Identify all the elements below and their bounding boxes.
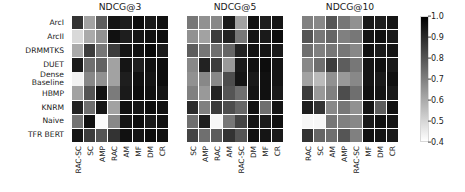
heatmap-cell [133, 86, 144, 99]
x-axis-tick: MF [259, 143, 271, 192]
heatmap-cell [375, 101, 386, 114]
heatmap-cell [120, 16, 131, 29]
heatmap-cell [248, 30, 259, 43]
heatmap-cell [72, 30, 83, 43]
heatmap-cell [84, 86, 95, 99]
heatmap-cell [84, 44, 95, 57]
heatmap-panel-ndcg5: NDCG@5 SCAMPRACAMRAC-SCDMMFCR [187, 16, 283, 142]
x-axis-tick: SC [187, 143, 199, 192]
heatmap-cell [363, 86, 374, 99]
x-axis-label: DM [249, 146, 258, 158]
heatmap-cell [211, 30, 222, 43]
heatmap-cell [272, 101, 283, 114]
heatmap-cell [108, 129, 119, 142]
heatmap-cell [157, 72, 168, 85]
heatmap-cell [133, 58, 144, 71]
heatmap-cell [187, 129, 198, 142]
heatmap-cell [375, 115, 386, 128]
heatmap-cell [248, 115, 259, 128]
heatmap-cell [363, 115, 374, 128]
heatmap-cell [108, 44, 119, 57]
heatmap-cell [145, 44, 156, 57]
heatmap-cell [120, 72, 131, 85]
heatmap-cell [338, 86, 349, 99]
heatmap-cell [211, 129, 222, 142]
heatmap-cell [326, 30, 337, 43]
heatmap-cell [72, 86, 83, 99]
heatmap-cell [145, 58, 156, 71]
heatmap-cell [363, 30, 374, 43]
heatmap-cell [211, 86, 222, 99]
heatmap-cell [199, 101, 210, 114]
x-axis-label: SC [189, 146, 198, 156]
heatmap-cell [72, 115, 83, 128]
x-axis-tick: RAC-SC [72, 143, 84, 192]
heatmap-cell [314, 101, 325, 114]
x-axis-label: CR [388, 146, 397, 156]
heatmap-cell [133, 16, 144, 29]
heatmap-cell [326, 58, 337, 71]
heatmap-cell [96, 72, 107, 85]
heatmap-cell [157, 44, 168, 57]
y-axis-label: HBMP [0, 87, 68, 101]
x-axis-tick: AM [120, 143, 132, 192]
x-axis-tick: SC [314, 143, 326, 192]
heatmap-cell [145, 16, 156, 29]
x-axis-tick: RAC [302, 143, 314, 192]
heatmap-cell [211, 72, 222, 85]
heatmap-cell [84, 115, 95, 128]
colorbar-tick-label: 0.7 [431, 75, 444, 84]
heatmap-cell [350, 58, 361, 71]
heatmap-grid-ndcg3 [72, 16, 168, 142]
x-axis-label: MF [134, 146, 143, 157]
x-axis-label: RAC-SC [352, 146, 361, 173]
heatmap-cell [223, 16, 234, 29]
heatmap-cell [72, 44, 83, 57]
x-axis-tick: CR [386, 143, 398, 192]
heatmap-cell [235, 115, 246, 128]
heatmap-cell [375, 30, 386, 43]
colorbar-tick-mark [428, 142, 431, 143]
heatmap-cell [235, 30, 246, 43]
heatmap-cell [302, 72, 313, 85]
heatmap-cell [272, 58, 283, 71]
heatmap-cell [72, 72, 83, 85]
heatmap-panel-ndcg3: NDCG@3 RAC-SCSCAMPRACAMMFDMCR [72, 16, 168, 142]
heatmap-cell [145, 115, 156, 128]
heatmap-cell [199, 30, 210, 43]
heatmap-cell [72, 58, 83, 71]
colorbar-tick-mark [428, 58, 431, 59]
heatmap-cell [387, 72, 398, 85]
heatmap-cell [211, 115, 222, 128]
heatmap-cell [145, 72, 156, 85]
heatmap-cell [387, 44, 398, 57]
heatmap-cell [387, 86, 398, 99]
heatmap-grid-ndcg5 [187, 16, 283, 142]
x-axis-tick: RAC-SC [350, 143, 362, 192]
heatmap-cell [235, 72, 246, 85]
heatmap-cell [235, 101, 246, 114]
heatmap-cell [187, 101, 198, 114]
heatmap-cell [145, 30, 156, 43]
heatmap-cell [326, 44, 337, 57]
heatmap-cell [223, 86, 234, 99]
x-axis-tick: AMP [338, 143, 350, 192]
heatmap-figure: ArcIArcIIDRMMTKSDUETDense BaselineHBMPKN… [0, 0, 465, 192]
colorbar-tick-mark [428, 100, 431, 101]
heatmap-cell [133, 129, 144, 142]
heatmap-cell [223, 115, 234, 128]
heatmap-cell [387, 30, 398, 43]
heatmap-cell [375, 16, 386, 29]
heatmap-cell [211, 101, 222, 114]
heatmap-cell [350, 115, 361, 128]
heatmap-cell [187, 72, 198, 85]
heatmap-cell [211, 16, 222, 29]
heatmap-cell [157, 58, 168, 71]
heatmap-cell [120, 115, 131, 128]
heatmap-cell [314, 30, 325, 43]
heatmap-cell [272, 86, 283, 99]
heatmap-cell [338, 101, 349, 114]
heatmap-cell [187, 115, 198, 128]
heatmap-cell [84, 101, 95, 114]
heatmap-cell [375, 129, 386, 142]
